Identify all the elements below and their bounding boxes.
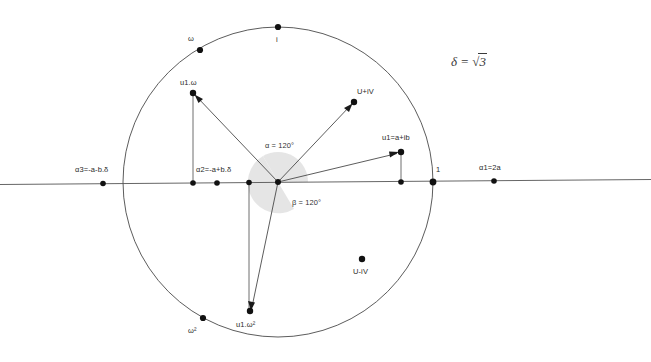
point-foot-u1-omega <box>190 180 196 186</box>
point-u-plus-iv <box>351 99 357 105</box>
label-beta-angle: β = 120° <box>292 199 321 207</box>
real-axis-line <box>0 180 651 185</box>
point-u-minus-iv <box>359 256 365 262</box>
delta-formula: δ = √3 <box>451 55 487 68</box>
point-u1-omega-squared <box>247 308 253 314</box>
label-omega-squared: ω² <box>188 327 197 335</box>
point-i <box>275 24 281 30</box>
radicand: 3 <box>478 53 487 69</box>
label-alpha1: α1=2a <box>479 164 501 172</box>
delta-symbol: δ <box>451 54 457 69</box>
point-one <box>430 179 437 186</box>
point-alpha1 <box>491 178 497 184</box>
point-origin <box>275 179 281 185</box>
label-u1-omega-squared: u1.ω² <box>236 321 255 329</box>
point-u1-omega <box>190 90 196 96</box>
label-i: i <box>276 36 278 44</box>
point-omega <box>197 47 203 53</box>
point-foot-u1 <box>398 179 404 185</box>
label-alpha-angle: α = 120° <box>265 142 294 150</box>
point-alpha2 <box>214 180 220 186</box>
label-u1: u1=a+ib <box>382 134 410 142</box>
diagram-canvas: i ω ω² 1 α1=2a α2=-a+b.δ α3=-a-b.δ u1=a+… <box>0 0 651 362</box>
label-alpha2: α2=-a+b.δ <box>196 166 231 174</box>
label-omega: ω <box>188 35 194 43</box>
point-u1 <box>398 149 404 155</box>
label-one: 1 <box>436 166 440 174</box>
label-alpha3: α3=-a-b.δ <box>75 166 108 174</box>
point-alpha3 <box>100 181 106 187</box>
label-u-plus-iv: U+iV <box>357 88 374 96</box>
point-omega-squared <box>200 315 206 321</box>
label-u1-omega: u1.ω <box>180 79 197 87</box>
equals-sign: = <box>460 54 469 69</box>
point-foot-u1-omega-squared <box>246 180 252 186</box>
label-u-minus-iv: U-iV <box>353 268 368 276</box>
diagram-svg <box>0 0 651 362</box>
arrowhead-u1 <box>389 152 399 158</box>
